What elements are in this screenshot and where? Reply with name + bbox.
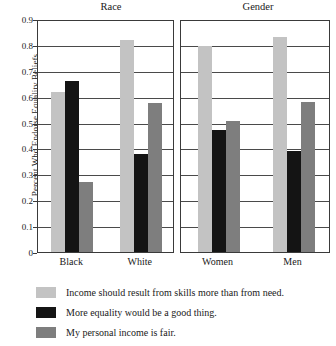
y-tick-mark [33,72,37,73]
x-tick-label: Women [180,256,255,267]
y-tick-mark [33,46,37,47]
gridline [38,72,173,73]
bar [287,151,301,252]
bar [120,40,134,252]
y-tick-mark [33,98,37,99]
bar [212,130,226,252]
panel-title-gender: Gender [188,1,328,12]
plot-panel-gender [180,20,330,253]
legend-item: My personal income is fair. [36,322,336,342]
y-tick-mark [33,124,37,125]
y-tick-mark [33,253,37,254]
legend-label: My personal income is fair. [66,327,176,338]
bar [51,92,65,253]
plot-panel-race [37,20,174,253]
x-tick-label: Black [37,256,106,267]
y-tick-mark [33,227,37,228]
y-tick-mark [33,20,37,21]
y-tick-label: 0.4 [0,145,33,154]
y-tick-label: 0.1 [0,223,33,232]
bar [148,103,162,252]
y-tick-label: 0.6 [0,93,33,102]
bar [301,102,315,252]
bar [273,37,287,252]
legend-item: More equality would be a good thing. [36,302,336,322]
bar [134,154,148,252]
y-tick-mark [33,175,37,176]
y-tick-label: 0 [0,249,33,258]
x-tick-label: Men [255,256,330,267]
y-axis-ticks: 0.90.80.70.60.50.40.30.20.10 [0,0,33,346]
y-tick-mark [33,201,37,202]
y-tick-label: 0.8 [0,41,33,50]
bar [65,81,79,252]
chart-legend: Income should result from skills more th… [36,282,336,342]
legend-item: Income should result from skills more th… [36,282,336,302]
legend-label: Income should result from skills more th… [66,287,284,298]
y-tick-label: 0.7 [0,67,33,76]
y-tick-label: 0.5 [0,119,33,128]
panel-title-race: Race [48,1,174,12]
y-tick-label: 0.3 [0,171,33,180]
legend-swatch-icon [36,287,56,298]
bar [79,182,93,252]
bar [226,121,240,252]
legend-swatch-icon [36,307,56,318]
bar [198,46,212,252]
bar-chart: Percent Who Endorse Equality Beliefs Rac… [0,0,336,346]
y-tick-label: 0.2 [0,197,33,206]
legend-swatch-icon [36,327,56,338]
gridline [38,46,173,47]
y-tick-label: 0.9 [0,16,33,25]
legend-label: More equality would be a good thing. [66,307,217,318]
y-tick-mark [33,149,37,150]
x-tick-label: White [106,256,175,267]
